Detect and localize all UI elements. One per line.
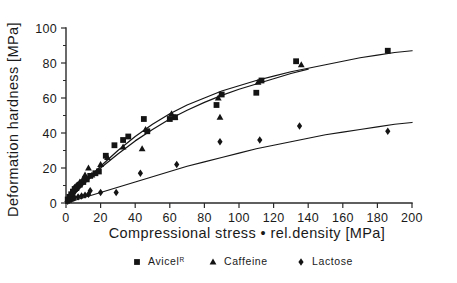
data-point-lactose [385,128,390,135]
y-axis-tick-label: 60 [42,92,57,106]
x-axis-tick-label: 40 [128,211,143,225]
fit-curve-caffeine [66,69,308,203]
data-point-caffeine [217,114,224,120]
data-point-avicel [293,58,299,64]
x-axis-tick-label: 60 [163,211,178,225]
data-point-lactose [174,161,179,168]
legend-marker-lactose [298,258,303,265]
x-axis-tick-label: 120 [263,211,285,225]
y-axis-tick-label: 80 [42,57,57,71]
legend-label-lactose: Lactose [312,255,353,267]
legend-marker-caffeine [210,258,217,264]
data-point-lactose [114,189,119,196]
data-point-lactose [257,136,262,143]
x-axis-tick-label: 20 [93,211,108,225]
y-axis-tick-label: 100 [35,22,57,36]
data-point-caffeine [139,145,146,151]
y-axis-tick-label: 20 [42,162,57,176]
data-point-avicel [125,134,131,140]
data-point-lactose [138,170,143,177]
data-point-avicel [219,92,225,98]
legend-label-caffeine: Caffeine [224,255,268,267]
fit-curve-avicel [66,51,412,203]
y-axis-tick-label: 0 [50,197,57,211]
data-point-avicel [214,102,220,108]
legend-marker-avicel [134,259,140,265]
legend-superscript: R [179,256,184,263]
data-point-avicel [253,90,259,96]
chart-figure: 020406080100020406080100120140160180200C… [0,0,457,283]
axis-frame [66,28,412,203]
data-point-avicel [385,48,391,54]
x-axis-title: Compressional stress • rel.density [MPa] [109,225,386,241]
x-axis-tick-label: 200 [401,211,423,225]
data-point-caffeine [85,164,92,170]
scatter-plot-svg: 020406080100020406080100120140160180200C… [0,0,457,283]
y-axis-tick-label: 40 [42,127,57,141]
data-point-avicel [141,116,147,122]
data-point-lactose [297,122,302,129]
y-axis-title: Deformation hardness [MPa] [5,22,21,217]
data-point-avicel [167,116,173,122]
legend-label-avicel: AvicelR [148,255,185,267]
x-axis-tick-label: 140 [297,211,319,225]
data-point-avicel [120,137,126,143]
x-axis-tick-label: 180 [367,211,389,225]
fit-curve-lactose [66,123,412,204]
x-axis-tick-label: 0 [62,211,69,225]
data-point-lactose [98,189,103,196]
data-point-avicel [112,142,118,148]
data-point-lactose [217,138,222,145]
x-axis-tick-label: 80 [197,211,212,225]
x-axis-tick-label: 160 [332,211,354,225]
x-axis-tick-label: 100 [228,211,250,225]
